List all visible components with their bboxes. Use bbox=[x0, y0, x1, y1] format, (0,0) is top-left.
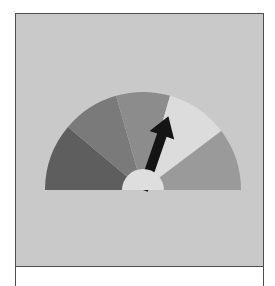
gauge-chart bbox=[0, 0, 275, 279]
